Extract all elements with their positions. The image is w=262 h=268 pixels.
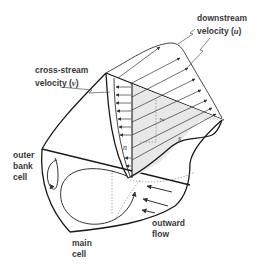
river-bend-flow-diagram: downstream velocity (u) cross-stream vel… — [0, 0, 262, 268]
outward-flow-label-line2: flow — [152, 229, 169, 239]
outer-bank-cell-label-line1: outer — [13, 150, 35, 160]
main-cell-label-line2: cell — [72, 249, 86, 259]
downstream-velocity-label-line2: velocity (u) — [197, 26, 242, 36]
outer-bank-cell-label-line3: cell — [13, 172, 27, 182]
cross-stream-velocity-label-line2: velocity (v) — [35, 78, 79, 88]
leader-lines — [60, 29, 210, 93]
cross-stream-profile — [106, 73, 132, 178]
main-cell-label-line1: main — [72, 238, 92, 248]
n-axis-label: n — [123, 143, 127, 152]
outer-bank-cell-circulation — [47, 158, 58, 189]
outward-flow-arrows — [142, 186, 172, 213]
outward-flow-label-line1: outward — [152, 218, 185, 228]
cross-stream-velocity-label-line1: cross-stream — [35, 65, 89, 75]
s-axis-label: s — [178, 134, 181, 143]
downstream-velocity-label-line1: downstream — [197, 13, 248, 23]
outer-bank-cell-label-line2: bank — [13, 161, 33, 171]
main-cell-circulation — [61, 169, 135, 225]
